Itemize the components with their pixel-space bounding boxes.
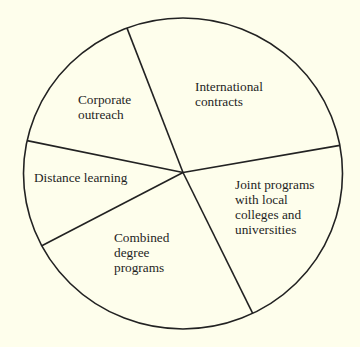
slice-label-combined-degree-programs: Combined degree programs — [114, 230, 169, 275]
pie-chart: International contracts Corporate outrea… — [0, 0, 360, 347]
slice-divider-line — [127, 28, 183, 173]
slice-divider-line — [183, 145, 340, 172]
slice-label-international-contracts: International contracts — [195, 79, 263, 109]
slice-label-distance-learning: Distance learning — [34, 170, 127, 185]
slice-label-joint-programs: Joint programs with local colleges and u… — [235, 177, 314, 237]
slice-divider-line — [27, 141, 183, 173]
slice-label-corporate-outreach: Corporate outreach — [78, 92, 131, 122]
